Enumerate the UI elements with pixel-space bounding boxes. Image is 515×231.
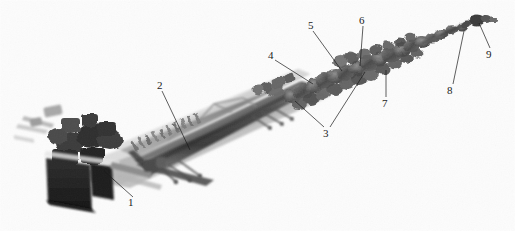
figure-panel: 1 2 3 4 5 6 7 8 9 [0,0,515,231]
callout-label-4: 4 [268,50,274,61]
callout-label-9: 9 [486,49,492,60]
callout-label-7: 7 [382,98,388,109]
callout-label-1: 1 [128,197,134,208]
callout-label-6: 6 [359,15,365,26]
callout-label-2: 2 [157,80,163,91]
callout-label-3: 3 [323,128,329,139]
accelerator-photograph [0,0,515,231]
photo-grain [0,0,515,231]
beamline-assembly [0,0,515,231]
callout-label-5: 5 [308,20,314,31]
callout-label-8: 8 [447,85,453,96]
